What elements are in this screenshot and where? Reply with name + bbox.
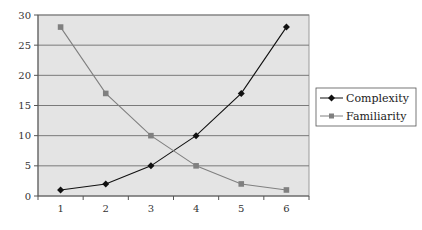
legend-label-complexity: Complexity (346, 92, 410, 105)
legend-label-familiarity: Familiarity (346, 110, 407, 123)
y-tick-label: 0 (25, 191, 31, 202)
square-marker-icon (238, 181, 244, 187)
x-tick-label: 4 (193, 203, 199, 214)
y-tick-label: 30 (18, 10, 31, 21)
legend: Complexity Familiarity (316, 88, 416, 126)
square-marker-icon (284, 187, 290, 193)
x-tick-label: 2 (103, 203, 109, 214)
x-tick-label: 3 (148, 203, 154, 214)
y-tick-label: 15 (18, 100, 31, 111)
y-tick-label: 20 (18, 70, 31, 81)
square-marker-icon (58, 24, 64, 30)
x-tick-label: 6 (283, 203, 289, 214)
square-marker-icon (193, 163, 199, 169)
x-tick-label: 1 (57, 203, 63, 214)
y-axis: 051015202530 (18, 10, 38, 202)
line-chart: 051015202530 123456 Complexity Familiari… (0, 0, 422, 230)
x-tick-label: 5 (238, 203, 244, 214)
square-marker-icon (329, 114, 334, 119)
square-marker-icon (148, 133, 154, 139)
y-tick-label: 10 (18, 130, 31, 141)
y-tick-label: 5 (25, 160, 31, 171)
y-tick-label: 25 (18, 40, 31, 51)
square-marker-icon (103, 91, 109, 97)
x-axis: 123456 (38, 196, 309, 214)
